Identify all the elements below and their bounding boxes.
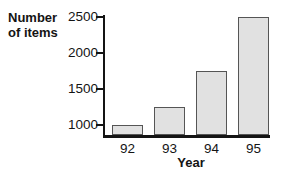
x-axis-line [103, 135, 270, 138]
y-tick-label-2000: 2000 [56, 45, 98, 61]
x-axis-title: Year [112, 155, 270, 170]
bar-93 [154, 107, 185, 135]
y-axis-title: Number of items [8, 10, 58, 40]
bar-chart-figure: Number of items 100015002000250092939495… [0, 0, 284, 175]
x-tick-label-92: 92 [112, 141, 143, 156]
y-axis-title-line1: Number [8, 10, 58, 25]
bar-94 [196, 71, 227, 135]
y-tick-label-2500: 2500 [56, 9, 98, 25]
y-tick-label-1000: 1000 [56, 117, 98, 133]
y-axis-title-line2: of items [8, 25, 58, 40]
x-tick-label-94: 94 [196, 141, 227, 156]
y-axis-line [103, 15, 105, 138]
x-tick-label-93: 93 [154, 141, 185, 156]
y-tick-label-1500: 1500 [56, 81, 98, 97]
x-tick-label-95: 95 [238, 141, 269, 156]
bar-92 [112, 125, 143, 135]
bar-95 [238, 17, 269, 135]
